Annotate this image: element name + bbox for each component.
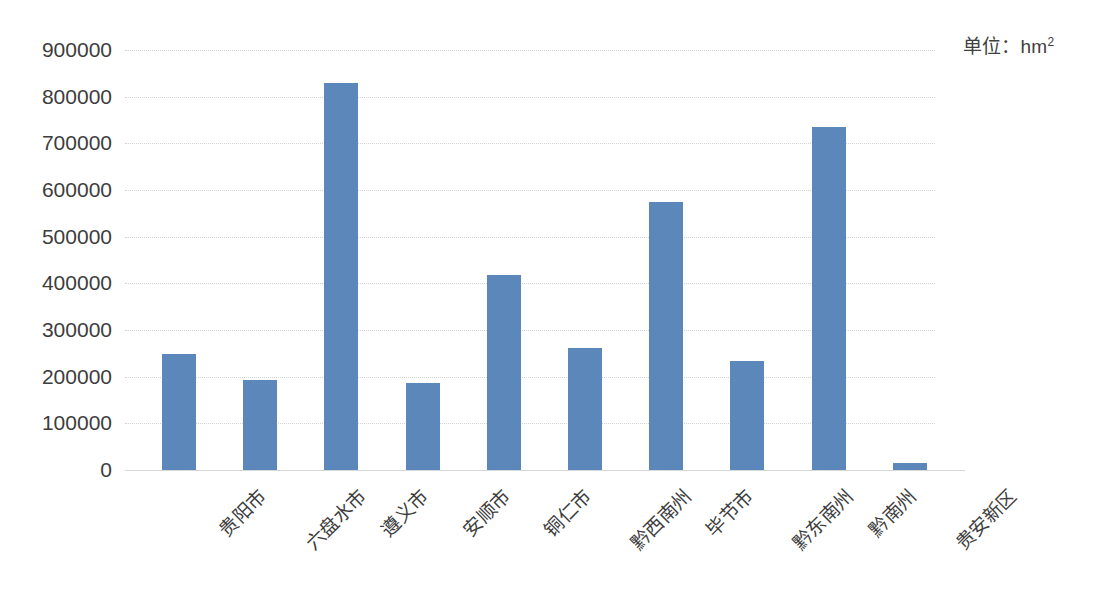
bar-chart: 单位：hm2 900000800000700000600000500000400… <box>0 0 1095 608</box>
y-axis-tick-label: 800000 <box>0 86 112 107</box>
x-axis-tick-label: 贵安新区 <box>948 482 1021 555</box>
bar[interactable] <box>649 202 683 470</box>
y-axis-tick-label: 700000 <box>0 132 112 153</box>
bar[interactable] <box>812 127 846 470</box>
x-axis-tick-label: 铜仁市 <box>536 482 595 541</box>
bar[interactable] <box>730 361 764 470</box>
bar[interactable] <box>243 380 277 470</box>
y-axis-tick-label: 400000 <box>0 272 112 293</box>
y-axis-tick-label: 100000 <box>0 412 112 433</box>
x-axis-tick-label: 黔东南州 <box>786 482 859 555</box>
x-axis-tick-label: 毕节市 <box>699 482 758 541</box>
x-axis-tick-label: 黔南州 <box>861 482 920 541</box>
unit-annotation-text: 单位：hm <box>963 36 1047 57</box>
bar[interactable] <box>162 354 196 470</box>
bar-series <box>125 50 965 470</box>
bar[interactable] <box>568 348 602 470</box>
x-axis-tick-label: 贵阳市 <box>212 482 271 541</box>
bar[interactable] <box>406 383 440 470</box>
y-axis-tick-label: 500000 <box>0 226 112 247</box>
x-axis-tick-label: 黔西南州 <box>623 482 696 555</box>
y-axis-tick-label: 600000 <box>0 179 112 200</box>
y-axis-tick-label: 900000 <box>0 39 112 60</box>
x-axis-tick-label: 遵义市 <box>374 482 433 541</box>
y-axis-tick-label: 300000 <box>0 319 112 340</box>
bar[interactable] <box>487 275 521 470</box>
x-axis-tick-label: 六盘水市 <box>298 482 371 555</box>
x-axis-labels: 贵阳市六盘水市遵义市安顺市铜仁市黔西南州毕节市黔东南州黔南州贵安新区 <box>0 470 1095 608</box>
unit-annotation: 单位：hm2 <box>963 31 1054 58</box>
bar[interactable] <box>324 83 358 470</box>
y-axis-tick-label: 200000 <box>0 366 112 387</box>
unit-annotation-exponent: 2 <box>1047 35 1054 49</box>
x-axis-tick-label: 安顺市 <box>455 482 514 541</box>
